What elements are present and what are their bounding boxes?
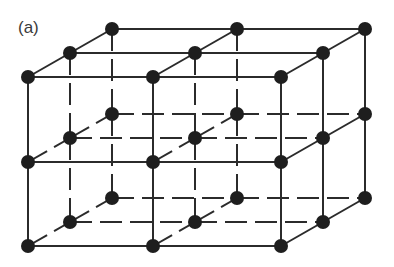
lattice-edge-depth bbox=[195, 114, 237, 138]
lattice-atom-node bbox=[63, 215, 77, 229]
lattice-edge-depth bbox=[323, 114, 365, 138]
lattice-atom-node bbox=[146, 155, 160, 169]
lattice-atom-node bbox=[274, 239, 288, 253]
lattice-atom-node bbox=[316, 131, 330, 145]
lattice-atom-node bbox=[274, 155, 288, 169]
lattice-edge-depth bbox=[28, 138, 70, 162]
lattice-atom-node bbox=[63, 46, 77, 60]
lattice-atom-node bbox=[21, 155, 35, 169]
lattice-edge-depth bbox=[195, 29, 237, 53]
lattice-edge-depth bbox=[70, 198, 112, 222]
lattice-edge-depth bbox=[281, 53, 323, 77]
lattice-atom-node bbox=[146, 239, 160, 253]
lattice-atom-node bbox=[274, 70, 288, 84]
lattice-edge-depth bbox=[195, 198, 237, 222]
lattice-atom-node bbox=[358, 107, 372, 121]
lattice-edge-depth bbox=[28, 222, 70, 246]
lattice-atom-node bbox=[358, 22, 372, 36]
lattice-atom-node bbox=[316, 215, 330, 229]
lattice-atom-node bbox=[63, 131, 77, 145]
lattice-atom-node bbox=[316, 46, 330, 60]
lattice-edge-depth bbox=[70, 114, 112, 138]
lattice-edge-depth bbox=[70, 29, 112, 53]
cubic-lattice-diagram bbox=[0, 0, 394, 267]
lattice-edge-depth bbox=[28, 53, 70, 77]
lattice-atom-node bbox=[230, 22, 244, 36]
lattice-atom-node bbox=[21, 239, 35, 253]
lattice-edge-depth bbox=[281, 138, 323, 162]
lattice-edge-depth bbox=[281, 222, 323, 246]
lattice-atom-node bbox=[21, 70, 35, 84]
lattice-atom-node bbox=[105, 191, 119, 205]
lattice-nodes bbox=[21, 22, 372, 253]
lattice-atom-node bbox=[146, 70, 160, 84]
lattice-edge-depth bbox=[323, 198, 365, 222]
lattice-edge-depth bbox=[153, 138, 195, 162]
lattice-atom-node bbox=[188, 46, 202, 60]
lattice-atom-node bbox=[188, 215, 202, 229]
lattice-edge-depth bbox=[323, 29, 365, 53]
lattice-atom-node bbox=[105, 107, 119, 121]
lattice-edge-depth bbox=[153, 53, 195, 77]
lattice-atom-node bbox=[188, 131, 202, 145]
lattice-atom-node bbox=[358, 191, 372, 205]
lattice-edge-depth bbox=[153, 222, 195, 246]
lattice-atom-node bbox=[230, 107, 244, 121]
lattice-atom-node bbox=[105, 22, 119, 36]
lattice-atom-node bbox=[230, 191, 244, 205]
